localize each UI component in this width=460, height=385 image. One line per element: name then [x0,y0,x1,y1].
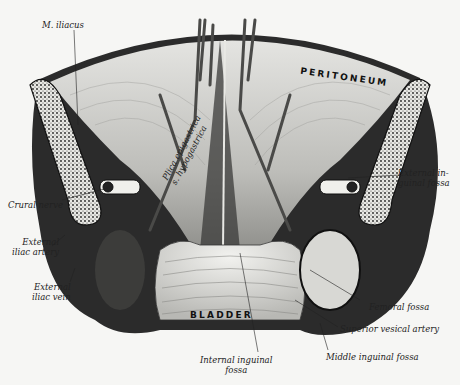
label-crural-nerve: Crural nerve [8,200,63,210]
bladder [155,241,305,320]
label-m-iliacus: M. iliacus [42,20,84,30]
label-external-iliac-vein: External iliac vein [32,282,71,302]
label-middle-inguinal-fossa: Middle inguinal fossa [326,352,419,362]
label-superior-vesical-artery: Superior vesical artery [340,324,439,334]
label-external-inguinal-fossa: External in- guinal fossa [398,168,450,188]
label-internal-inguinal-fossa: Internal inguinal fossa [200,355,272,375]
label-bladder: BLADDER [190,310,253,320]
label-external-iliac-artery: External iliac artery [12,237,59,257]
label-femoral-fossa: Femoral fossa [369,302,429,312]
